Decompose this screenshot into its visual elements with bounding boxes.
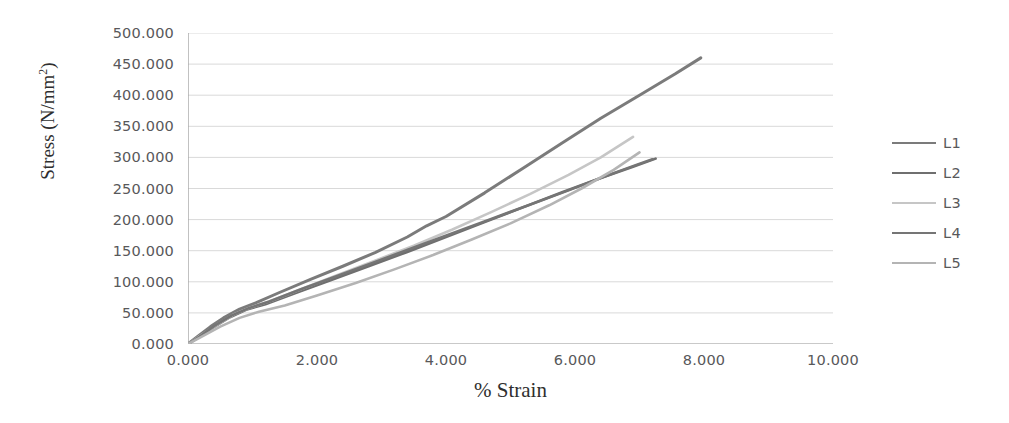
y-tick-label: 0.000	[131, 336, 174, 352]
x-tick-label: 6.000	[554, 352, 597, 368]
y-tick-label: 300.000	[113, 149, 174, 165]
y-tick-label: 250.000	[113, 181, 174, 197]
legend-item-label: L3	[943, 195, 961, 211]
legend-item-l2[interactable]: L2	[892, 158, 1004, 188]
y-tick-label: 400.000	[113, 87, 174, 103]
legend-swatch-line-icon	[892, 172, 936, 174]
plot-svg	[188, 33, 833, 344]
legend-swatch-line-icon	[892, 202, 936, 204]
legend-item-l1[interactable]: L1	[892, 128, 1004, 158]
legend-item-label: L5	[943, 255, 961, 271]
y-tick-label: 50.000	[122, 305, 174, 321]
stress-strain-chart: Stress (N/mm2) 0.00050.000100.000150.000…	[0, 0, 1009, 423]
legend-swatch-line-icon	[892, 262, 936, 264]
plot-area	[188, 33, 833, 344]
data-series-l1	[188, 58, 701, 344]
y-tick-label: 450.000	[113, 56, 174, 72]
y-axis-tick-labels: 0.00050.000100.000150.000200.000250.0003…	[40, 33, 182, 344]
legend-item-l3[interactable]: L3	[892, 188, 1004, 218]
chart-legend: L1L2L3L4L5	[892, 128, 1004, 278]
legend-item-l4[interactable]: L4	[892, 218, 1004, 248]
data-series-group	[188, 58, 701, 344]
legend-item-label: L2	[943, 165, 961, 181]
y-tick-label: 350.000	[113, 118, 174, 134]
legend-item-l5[interactable]: L5	[892, 248, 1004, 278]
x-axis-title: % Strain	[188, 378, 833, 403]
x-tick-label: 8.000	[683, 352, 726, 368]
y-tick-label: 500.000	[113, 25, 174, 41]
y-tick-label: 200.000	[113, 212, 174, 228]
legend-item-label: L1	[943, 135, 961, 151]
x-tick-label: 10.000	[807, 352, 859, 368]
x-axis-tick-labels: 0.0002.0004.0006.0008.00010.000	[188, 352, 848, 378]
x-tick-label: 2.000	[296, 352, 339, 368]
y-tick-label: 150.000	[113, 243, 174, 259]
x-tick-label: 4.000	[425, 352, 468, 368]
x-tick-label: 0.000	[167, 352, 210, 368]
legend-swatch-line-icon	[892, 142, 936, 144]
legend-swatch-line-icon	[892, 232, 936, 234]
y-tick-label: 100.000	[113, 274, 174, 290]
legend-item-label: L4	[943, 225, 961, 241]
